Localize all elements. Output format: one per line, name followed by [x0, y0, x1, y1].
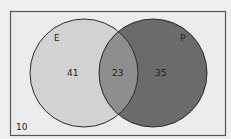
intersection-value: 23	[112, 68, 123, 78]
venn-diagram: E P 41 23 35 10	[0, 0, 231, 139]
set-p-only-value: 35	[155, 68, 166, 78]
set-p-label: P	[180, 33, 186, 43]
set-e-label: E	[54, 33, 60, 43]
outside-value: 10	[16, 122, 28, 132]
set-e-only-value: 41	[67, 68, 78, 78]
